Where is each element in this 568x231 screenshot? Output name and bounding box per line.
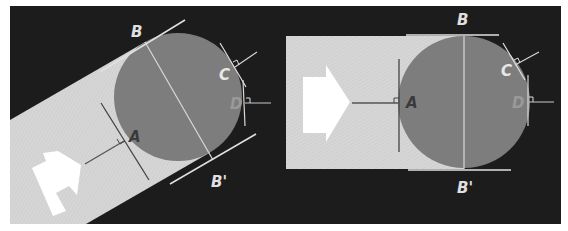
left-label-c: C bbox=[219, 66, 230, 84]
right-label-c: C bbox=[501, 62, 512, 80]
right-label-b-prime: B' bbox=[457, 179, 473, 197]
diagram-canvas: B B' A C D B B' A C D bbox=[0, 0, 568, 231]
right-label-a: A bbox=[405, 94, 418, 112]
right-label-d: D bbox=[512, 94, 524, 112]
left-label-b: B bbox=[131, 23, 142, 41]
left-label-a: A bbox=[128, 128, 141, 146]
left-label-b-prime: B' bbox=[211, 173, 227, 191]
left-label-d: D bbox=[230, 95, 242, 113]
right-label-b: B bbox=[457, 11, 468, 29]
